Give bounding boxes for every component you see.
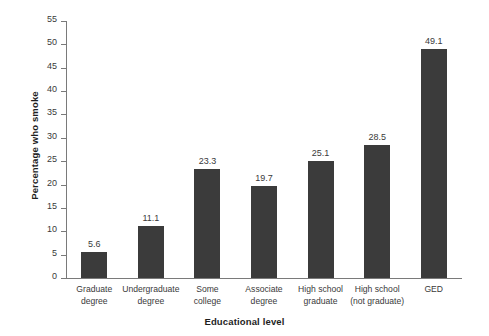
bar-value-label: 23.3 [177,156,237,166]
category-label-line-1: Graduate [76,284,112,294]
bar-value-label: 49.1 [404,36,464,46]
x-axis-category-label: GED [398,284,470,296]
y-axis-tick-mark [61,255,66,256]
y-axis-tick-label: 45 [47,61,57,71]
y-axis-tick-label: 30 [47,131,57,141]
y-axis-tick-label: 25 [47,154,57,164]
y-axis-tick-label: 0 [52,271,57,281]
x-axis-title: Educational level [0,316,489,327]
y-axis-tick: 40 [0,91,66,92]
y-axis-tick: 5 [0,255,66,256]
y-axis-tick-mark [61,231,66,232]
bar-value-label: 28.5 [347,132,407,142]
y-axis-tick: 10 [0,231,66,232]
bar [251,186,277,278]
x-axis-line [66,278,462,279]
y-axis-tick-mark [61,68,66,69]
y-axis-tick-mark [61,185,66,186]
y-axis-tick-mark [61,278,66,279]
category-label-line-1: High school [355,284,400,294]
bar [421,49,447,278]
y-axis-tick-mark [61,208,66,209]
bar [308,161,334,278]
bar-value-label: 25.1 [291,148,351,158]
y-axis-tick: 55 [0,21,66,22]
y-axis-tick-label: 55 [47,14,57,24]
y-axis-title: Percentage who smoke [29,46,40,246]
y-axis-tick-mark [61,44,66,45]
category-label-line-1: High school [298,284,343,294]
y-axis-tick-mark [61,138,66,139]
y-axis-tick: 35 [0,114,66,115]
y-axis-tick-label: 20 [47,178,57,188]
y-axis-tick-label: 40 [47,84,57,94]
category-label-line-1: GED [424,284,443,294]
y-axis-tick-label: 15 [47,201,57,211]
y-axis-tick-mark [61,161,66,162]
y-axis-tick: 25 [0,161,66,162]
y-axis-tick: 30 [0,138,66,139]
y-axis-tick-label: 35 [47,107,57,117]
category-label-line-2: (not graduate) [341,296,413,308]
y-axis-tick: 45 [0,68,66,69]
y-axis-tick: 0 [0,278,66,279]
y-axis-tick: 50 [0,44,66,45]
y-axis-tick: 20 [0,185,66,186]
bar [364,145,390,278]
y-axis-tick-mark [61,91,66,92]
y-axis-tick-mark [61,21,66,22]
y-axis-tick: 15 [0,208,66,209]
bar-chart: Percentage who smoke 0510152025303540455… [0,0,489,336]
y-axis-tick-label: 50 [47,37,57,47]
bar-value-label: 19.7 [234,173,294,183]
bar [138,226,164,278]
bar [81,252,107,278]
bar [194,169,220,278]
category-label-line-1: Associate [245,284,282,294]
y-axis-tick-label: 5 [52,248,57,258]
category-label-line-1: Some [196,284,218,294]
bar-value-label: 5.6 [64,239,124,249]
y-axis-tick-label: 10 [47,224,57,234]
y-axis-tick-mark [61,114,66,115]
bar-value-label: 11.1 [121,213,181,223]
